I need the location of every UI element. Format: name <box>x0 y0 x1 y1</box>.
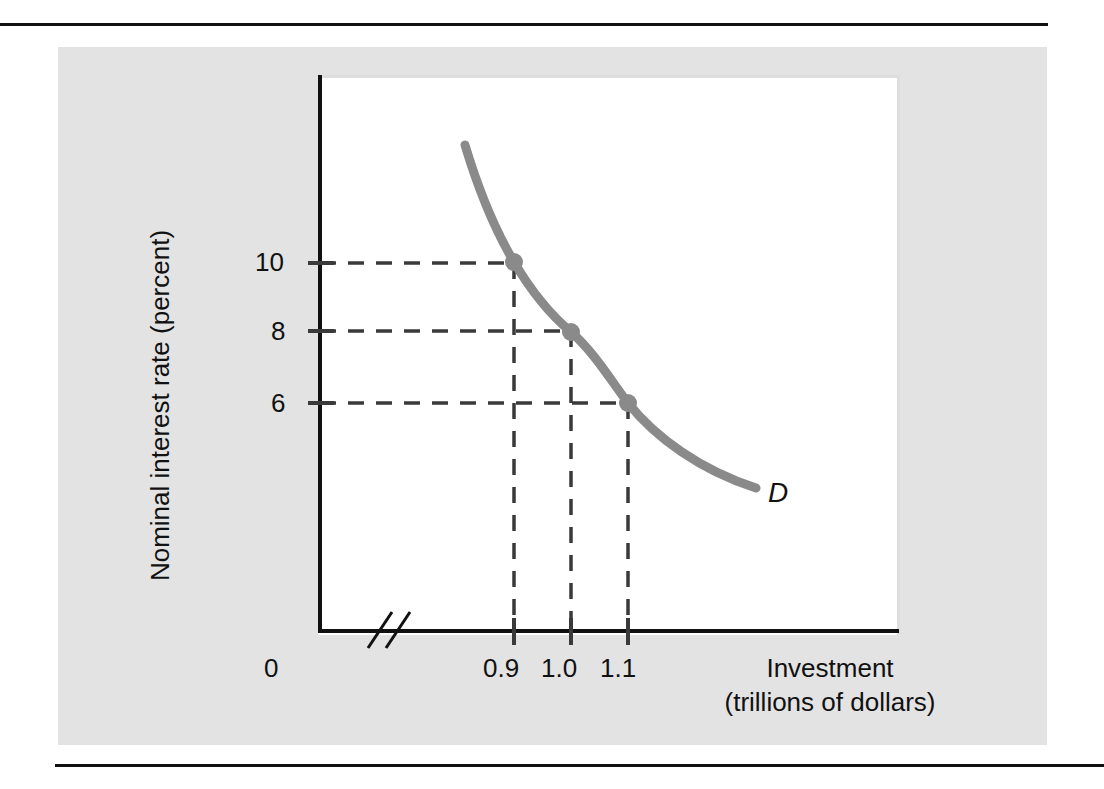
data-point-marker-1.0 <box>562 323 580 341</box>
y-axis-title: Nominal interest rate (percent) <box>145 196 176 616</box>
x-axis-title: Investment (trillions of dollars) <box>700 651 960 719</box>
x-axis-tick-label-1.0: 1.0 <box>541 653 577 684</box>
y-axis-tick-label-6: 6 <box>271 388 285 419</box>
demand-curve <box>465 145 756 488</box>
demand-curve-label: D <box>768 477 788 509</box>
x-axis-tick-label-0.9: 0.9 <box>483 653 519 684</box>
figure-root: 10 8 6 0 0.9 1.0 1.1 Nominal interest ra… <box>0 0 1104 789</box>
x-axis-tick-label-1.1: 1.1 <box>600 653 636 684</box>
data-point-marker-0.9 <box>505 253 523 271</box>
y-axis-tick-label-8: 8 <box>271 316 285 347</box>
x-axis-title-line1: Investment <box>766 653 893 683</box>
data-point-marker-1.1 <box>619 394 637 412</box>
x-axis-title-line2: (trillions of dollars) <box>700 685 960 719</box>
y-axis-tick-label-10: 10 <box>255 247 284 278</box>
x-axis-origin-label: 0 <box>264 653 278 684</box>
